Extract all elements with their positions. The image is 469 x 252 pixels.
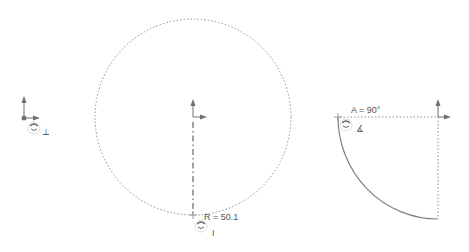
- y-axis-arrow: [22, 96, 27, 103]
- angle-dimension-label[interactable]: A = 90°: [351, 105, 381, 115]
- x-axis-arrow: [33, 116, 40, 121]
- angle-relation-icon: ∡: [356, 124, 364, 134]
- radius-dimension-label[interactable]: R = 50.1: [204, 212, 238, 222]
- quarter-arc[interactable]: [338, 117, 438, 219]
- origin-axes-right: [436, 99, 452, 120]
- perpendicular-relation-icon: ⟂: [43, 127, 49, 137]
- origin-point[interactable]: [22, 116, 27, 121]
- rotate-cursor-icon: [195, 220, 207, 232]
- x-axis-arrow: [200, 115, 207, 120]
- y-axis-arrow: [436, 99, 441, 106]
- sketch-canvas[interactable]: ⟂ R = 50.1 I A = 90° ∡: [0, 0, 469, 252]
- rotate-cursor-icon: [340, 119, 352, 131]
- origin-axes-center: [191, 99, 208, 120]
- x-axis-arrow: [444, 115, 451, 120]
- origin-axes-left: [22, 96, 41, 121]
- y-axis-arrow: [191, 99, 196, 106]
- rotate-cursor-icon: [28, 122, 40, 134]
- vertical-relation-icon: I: [212, 228, 215, 238]
